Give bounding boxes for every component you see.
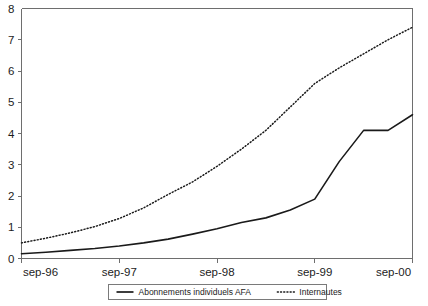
line-chart: 012345678 sep-96sep-97sep-98sep-99sep-00… [0, 0, 428, 306]
legend-label-1: Abonnements individuels AFA [139, 287, 252, 297]
y-tick-label: 7 [8, 34, 14, 46]
y-tick-label: 6 [8, 65, 14, 77]
x-tick-label: sep-97 [102, 266, 137, 278]
series-line-2 [22, 27, 413, 243]
plot-axes [22, 9, 413, 259]
y-tick-label: 8 [8, 3, 14, 15]
series-line-1 [22, 115, 413, 254]
y-axis-ticks: 012345678 [8, 3, 21, 265]
legend-label-2: Internautes [299, 287, 342, 297]
y-tick-label: 2 [8, 190, 14, 202]
x-tick-label: sep-99 [297, 266, 332, 278]
chart-legend: Abonnements individuels AFAInternautes [109, 285, 342, 300]
x-tick-label: sep-00 [376, 266, 411, 278]
y-tick-label: 0 [8, 253, 14, 265]
y-tick-label: 5 [8, 96, 14, 108]
y-tick-label: 1 [8, 221, 14, 233]
x-tick-label: sep-96 [23, 266, 58, 278]
chart-canvas: 012345678 sep-96sep-97sep-98sep-99sep-00… [0, 0, 428, 306]
x-tick-label: sep-98 [199, 266, 234, 278]
y-tick-label: 4 [8, 128, 15, 140]
data-series-layer [22, 27, 413, 254]
y-tick-label: 3 [8, 159, 14, 171]
x-axis-ticks: sep-96sep-97sep-98sep-99sep-00 [22, 259, 413, 278]
